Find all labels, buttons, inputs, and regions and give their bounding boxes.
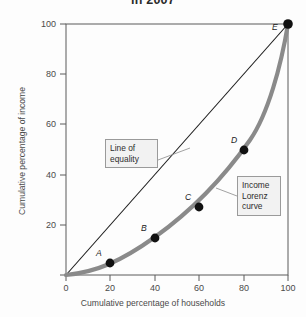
- annotation-equality-line1: Line of: [110, 143, 153, 154]
- data-point-d: [240, 146, 249, 155]
- y-tick-60: 60: [30, 119, 56, 129]
- x-axis-ticks: [66, 275, 288, 281]
- x-tick-100: 100: [276, 283, 300, 293]
- y-tick-100: 100: [30, 19, 56, 29]
- x-tick-0: 0: [54, 283, 78, 293]
- y-tick-80: 80: [30, 69, 56, 79]
- y-tick-20: 20: [30, 220, 56, 230]
- x-axis-title: Cumulative percentage of households: [0, 298, 306, 308]
- y-axis-title: Cumulative percentage of income: [17, 71, 27, 231]
- lorenz-curve-figure: in 2007: [0, 0, 306, 317]
- x-tick-20: 20: [98, 283, 122, 293]
- point-label-c: C: [185, 192, 191, 202]
- point-label-d: D: [231, 135, 237, 145]
- point-label-b: B: [141, 223, 147, 233]
- annotation-lorenz-line3: curve: [242, 201, 276, 212]
- data-point-e: [283, 19, 293, 29]
- annotation-lorenz-line1: Income: [242, 180, 276, 191]
- y-tick-40: 40: [30, 170, 56, 180]
- leader-line-equality: [158, 148, 190, 160]
- annotation-equality-line2: equality: [110, 154, 153, 165]
- point-label-a: A: [96, 248, 102, 258]
- data-point-b: [151, 234, 160, 243]
- annotation-lorenz-line2: Lorenz: [242, 191, 276, 202]
- point-label-e: E: [272, 22, 278, 32]
- data-point-a: [106, 259, 115, 268]
- x-tick-80: 80: [232, 283, 256, 293]
- annotation-line-of-equality: Line of equality: [105, 139, 158, 168]
- x-tick-60: 60: [187, 283, 211, 293]
- y-axis-ticks: [60, 24, 66, 275]
- x-tick-40: 40: [143, 283, 167, 293]
- leader-line-lorenz: [216, 188, 237, 196]
- data-point-c: [195, 203, 204, 212]
- annotation-income-lorenz-curve: Income Lorenz curve: [237, 176, 281, 216]
- line-of-equality: [66, 24, 288, 275]
